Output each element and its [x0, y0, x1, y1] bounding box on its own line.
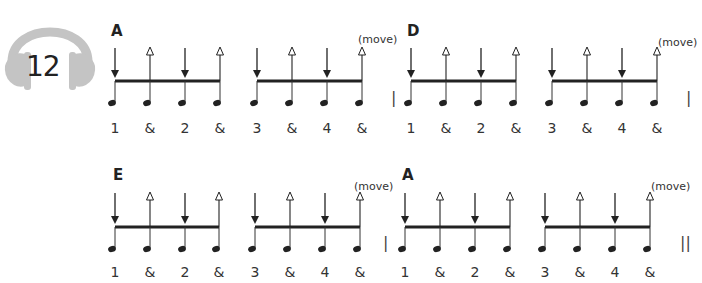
beat-count: 3	[247, 120, 267, 136]
chord-label-d: D	[407, 22, 419, 40]
beat-count: &	[647, 120, 667, 136]
beat-count: &	[352, 120, 372, 136]
strum-notation	[0, 0, 702, 283]
move-label: (move)	[651, 180, 690, 193]
beat-count: &	[280, 264, 300, 280]
beat-count: 3	[245, 264, 265, 280]
beat-count: 1	[401, 120, 421, 136]
move-label: (move)	[358, 33, 397, 46]
beat-count: 1	[105, 120, 125, 136]
beat-count: &	[570, 264, 590, 280]
beat-count: 2	[471, 120, 491, 136]
beat-count: 3	[542, 120, 562, 136]
beat-count: &	[350, 264, 370, 280]
beat-count: &	[140, 120, 160, 136]
chord-label-a: A	[111, 22, 123, 40]
beat-count: &	[577, 120, 597, 136]
beat-count: &	[210, 120, 230, 136]
beat-count: 2	[175, 264, 195, 280]
beat-count: &	[140, 264, 160, 280]
chord-label-a: A	[402, 166, 414, 184]
beat-count: 4	[317, 120, 337, 136]
beat-count: 1	[395, 264, 415, 280]
beat-count: 2	[465, 264, 485, 280]
beat-count: 2	[175, 120, 195, 136]
beat-count: &	[640, 264, 660, 280]
beat-count: &	[436, 120, 456, 136]
bar-line: |	[391, 88, 396, 107]
beat-count: &	[500, 264, 520, 280]
chord-label-e: E	[113, 166, 123, 184]
beat-count: &	[506, 120, 526, 136]
beat-count: 4	[612, 120, 632, 136]
beat-count: &	[430, 264, 450, 280]
bar-line: |	[383, 233, 388, 252]
bar-line: |	[686, 88, 691, 107]
beat-count: 4	[605, 264, 625, 280]
move-label: (move)	[658, 36, 697, 49]
final-bar-line: ||	[680, 233, 691, 252]
beat-count: 3	[535, 264, 555, 280]
move-label: (move)	[354, 180, 393, 193]
beat-count: 1	[105, 264, 125, 280]
beat-count: 4	[315, 264, 335, 280]
beat-count: &	[209, 264, 229, 280]
beat-count: &	[282, 120, 302, 136]
